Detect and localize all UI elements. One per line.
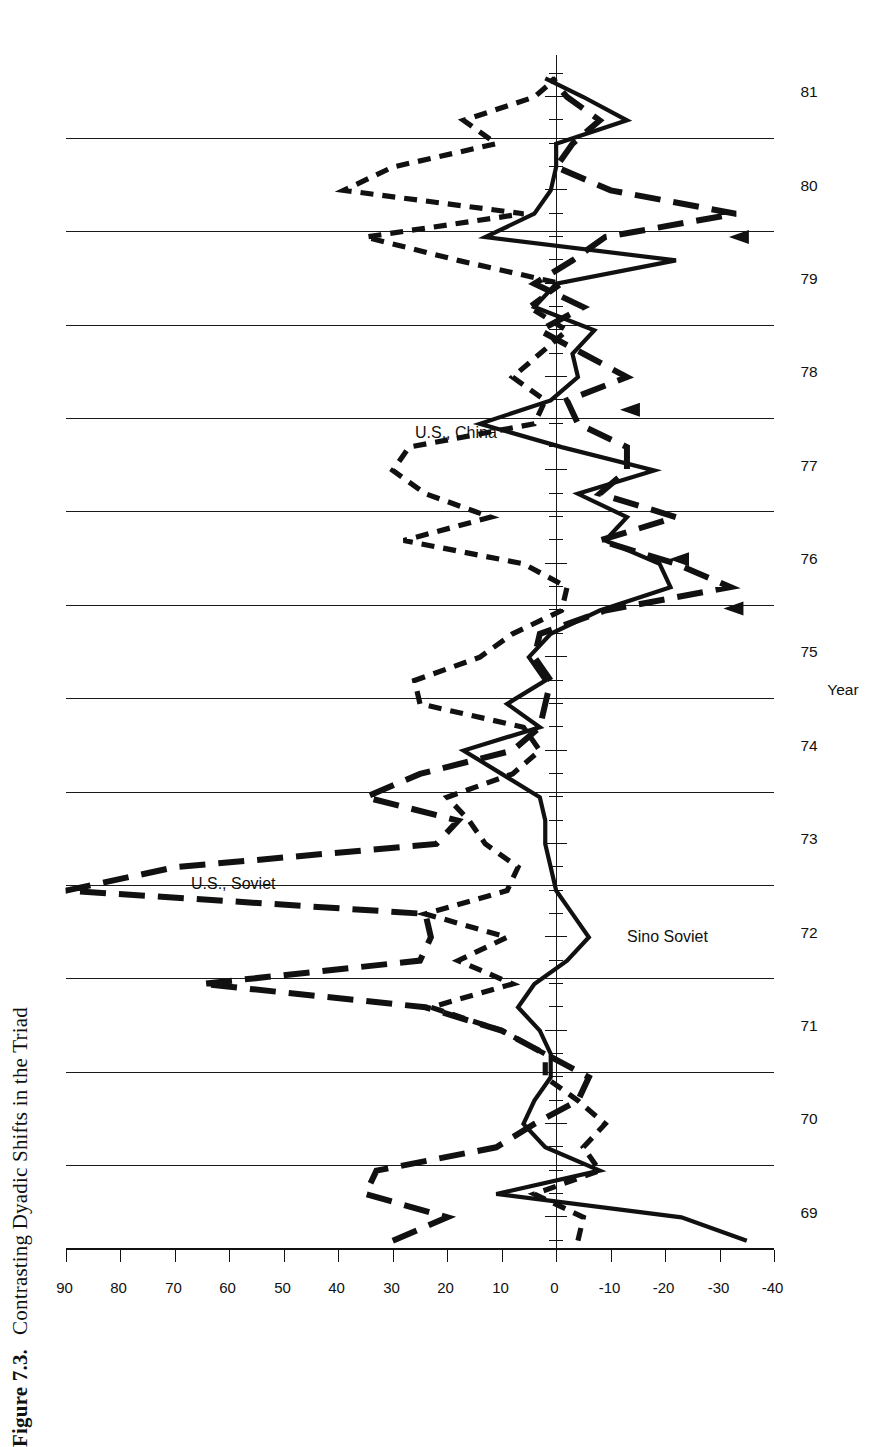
year-tick	[549, 143, 563, 144]
year-tick-label: 81	[795, 83, 823, 101]
year-tick-label: 71	[795, 1017, 823, 1035]
year-tick	[549, 166, 563, 167]
year-tick	[545, 936, 567, 937]
year-tick-label: 72	[795, 924, 823, 942]
year-tick	[549, 399, 563, 400]
value-tick	[175, 1250, 176, 1262]
value-tick	[720, 1250, 721, 1262]
series-lines	[66, 55, 774, 1250]
year-tick	[549, 633, 563, 634]
year-tick	[549, 586, 563, 587]
value-tick-label: 70	[156, 1279, 190, 1296]
year-tick	[545, 189, 567, 190]
year-tick	[549, 796, 563, 797]
x-axis-title: Year	[821, 681, 865, 699]
value-tick	[556, 1250, 557, 1262]
year-tick	[545, 1123, 567, 1124]
value-tick-label: -30	[701, 1279, 735, 1296]
year-tick	[549, 1170, 563, 1171]
year-tick	[545, 1216, 567, 1217]
year-tick	[549, 680, 563, 681]
year-tick-label: 74	[795, 737, 823, 755]
year-tick	[549, 1240, 563, 1241]
year-tick	[545, 750, 567, 751]
value-tick-label: 30	[374, 1279, 408, 1296]
figure-title: Contrasting Dyadic Shifts in the Triad	[8, 1007, 33, 1335]
value-tick	[338, 1250, 339, 1262]
year-tick	[545, 96, 567, 97]
year-tick	[549, 493, 563, 494]
series-arrowhead	[620, 403, 640, 417]
year-tick	[549, 423, 563, 424]
value-tick	[120, 1250, 121, 1262]
value-tick-label: 80	[102, 1279, 136, 1296]
year-tick	[549, 236, 563, 237]
value-tick	[284, 1250, 285, 1262]
value-tick-label: 60	[211, 1279, 245, 1296]
year-tick	[549, 1053, 563, 1054]
value-tick-label: -10	[592, 1279, 626, 1296]
year-tick	[549, 516, 563, 517]
value-tick-label: 40	[320, 1279, 354, 1296]
value-tick-label: -20	[647, 1279, 681, 1296]
year-tick	[549, 119, 563, 120]
year-tick-label: 73	[795, 830, 823, 848]
series-arrowhead	[729, 230, 749, 244]
value-tick	[502, 1250, 503, 1262]
series-line-u-s-soviet	[66, 78, 736, 1240]
year-tick	[549, 960, 563, 961]
year-tick	[545, 563, 567, 564]
year-tick	[549, 259, 563, 260]
value-tick	[393, 1250, 394, 1262]
year-tick-label: 79	[795, 270, 823, 288]
value-tick	[665, 1250, 666, 1262]
value-tick-label: 20	[429, 1279, 463, 1296]
value-tick-label: 0	[538, 1279, 572, 1296]
year-tick	[549, 1076, 563, 1077]
year-tick	[549, 866, 563, 867]
plot-area: Sino SovietU.S., SovietU.S., China 90807…	[66, 55, 774, 1250]
year-tick	[549, 73, 563, 74]
series-arrowhead	[723, 602, 743, 616]
series-label-sino-soviet: Sino Soviet	[627, 928, 708, 946]
year-tick	[549, 539, 563, 540]
year-tick	[549, 890, 563, 891]
year-tick	[549, 1193, 563, 1194]
year-tick	[549, 726, 563, 727]
year-tick	[549, 773, 563, 774]
figure-number: Figure 7.3.	[8, 1335, 33, 1447]
year-tick-label: 75	[795, 644, 823, 662]
value-tick-label: -40	[756, 1279, 790, 1296]
value-tick	[66, 1250, 67, 1262]
value-tick	[774, 1250, 775, 1262]
year-tick	[549, 1100, 563, 1101]
value-tick-label: 10	[483, 1279, 517, 1296]
year-tick	[549, 353, 563, 354]
year-tick	[545, 843, 567, 844]
year-tick	[545, 469, 567, 470]
figure-caption: Figure 7.3. Contrasting Dyadic Shifts in…	[0, 0, 40, 1447]
year-tick	[549, 1146, 563, 1147]
year-tick	[545, 656, 567, 657]
year-tick-label: 77	[795, 457, 823, 475]
year-tick	[549, 913, 563, 914]
year-tick	[549, 213, 563, 214]
year-tick-label: 76	[795, 550, 823, 568]
year-tick	[549, 306, 563, 307]
year-tick	[549, 983, 563, 984]
year-tick	[545, 283, 567, 284]
series-label-u-s-soviet: U.S., Soviet	[191, 875, 275, 893]
year-tick-label: 69	[795, 1204, 823, 1222]
value-tick-label: 90	[48, 1279, 82, 1296]
value-tick	[611, 1250, 612, 1262]
value-axis-line	[66, 1248, 774, 1250]
year-tick	[545, 1030, 567, 1031]
year-tick	[549, 610, 563, 611]
value-tick	[447, 1250, 448, 1262]
year-tick	[545, 376, 567, 377]
year-tick-label: 78	[795, 363, 823, 381]
value-tick-label: 50	[265, 1279, 299, 1296]
chart-canvas: Sino SovietU.S., SovietU.S., China 90807…	[40, 0, 850, 1310]
year-tick	[549, 820, 563, 821]
year-tick	[549, 703, 563, 704]
